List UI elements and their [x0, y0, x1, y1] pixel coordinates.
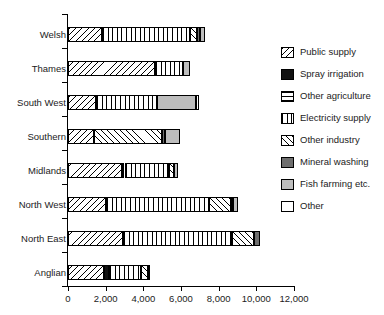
y-axis-label: South West — [0, 98, 66, 108]
legend-swatch-otheragri-icon — [281, 91, 294, 102]
legend-label: Fish farming etc. — [300, 178, 370, 190]
y-axis-label: Anglian — [0, 268, 66, 278]
bar-segment-otherind — [232, 231, 255, 246]
bar-segment-public — [68, 27, 102, 42]
bar-segment-fish — [174, 163, 178, 178]
bar-segment-otherind — [209, 197, 231, 212]
x-axis-label: 12,000 — [264, 294, 324, 304]
legend-item-other[interactable]: Other — [281, 198, 384, 220]
bar-segment-public — [68, 265, 104, 280]
bar-segment-public — [68, 95, 96, 110]
y-axis-label: Thames — [0, 64, 66, 74]
legend-item-fish[interactable]: Fish farming etc. — [281, 176, 384, 198]
legend-label: Other industry — [300, 134, 360, 146]
x-axis-tick — [219, 286, 220, 291]
y-axis-label: Southern — [0, 132, 66, 142]
bar-segment-otherind — [94, 129, 162, 144]
legend-swatch-mineral-icon — [281, 157, 294, 168]
legend-item-otheragri[interactable]: Other agriculture — [281, 88, 384, 110]
bar-segment-otherind — [141, 265, 148, 280]
legend-swatch-spray-icon — [281, 69, 294, 80]
y-axis-label: Welsh — [0, 30, 66, 40]
bar-segment-elec — [96, 95, 156, 110]
legend-item-public[interactable]: Public supply — [281, 44, 384, 66]
x-axis-tick — [256, 286, 257, 291]
legend-swatch-other-icon — [281, 201, 294, 212]
bar-segment-public — [68, 129, 94, 144]
bar-segment-public — [68, 163, 122, 178]
legend-item-mineral[interactable]: Mineral washing — [281, 154, 384, 176]
stacked-bar-chart: WelshThamesSouth WestSouthernMidlandsNor… — [0, 0, 384, 315]
bar-segment-elec — [102, 27, 191, 42]
bar-segment-public — [68, 197, 106, 212]
legend-item-spray[interactable]: Spray irrigation — [281, 66, 384, 88]
legend-swatch-elec-icon — [281, 113, 294, 124]
bar-segment-mineral — [254, 231, 260, 246]
legend-swatch-otherind-icon — [281, 135, 294, 146]
bar-segment-fish — [148, 265, 151, 280]
bar-segment-public — [68, 231, 123, 246]
bar-segment-fish — [200, 27, 205, 42]
bar-segment-fish — [233, 197, 238, 212]
legend-swatch-fish-icon — [281, 179, 294, 190]
legend-item-otherind[interactable]: Other industry — [281, 132, 384, 154]
x-axis-tick — [294, 286, 295, 291]
legend-label: Spray irrigation — [300, 68, 364, 80]
bar-segment-elec — [123, 231, 232, 246]
x-axis-tick — [181, 286, 182, 291]
legend-label: Mineral washing — [300, 156, 369, 168]
x-axis-tick — [106, 286, 107, 291]
y-axis-label: Midlands — [0, 166, 66, 176]
legend-label: Other — [300, 200, 324, 212]
legend-item-elec[interactable]: Electricity supply — [281, 110, 384, 132]
x-axis-tick — [143, 286, 144, 291]
bar-segment-elec — [155, 61, 183, 76]
y-axis-label: North East — [0, 234, 66, 244]
bar-segment-elec — [125, 163, 169, 178]
bar-segment-fish — [183, 61, 191, 76]
legend-label: Electricity supply — [300, 112, 371, 124]
bar-segment-otherind — [190, 27, 197, 42]
bar-segment-fish — [157, 95, 197, 110]
legend-label: Other agriculture — [300, 90, 371, 102]
legend-swatch-public-icon — [281, 47, 294, 58]
bar-segment-elec — [106, 197, 210, 212]
plot-area — [68, 14, 294, 286]
bar-segment-elec — [109, 265, 141, 280]
bar-segment-fish — [165, 129, 180, 144]
chart-legend: Public supplySpray irrigationOther agric… — [281, 44, 384, 220]
legend-label: Public supply — [300, 46, 356, 58]
bar-segment-public — [68, 61, 155, 76]
bar-segment-other — [196, 95, 199, 110]
x-axis-tick — [68, 286, 69, 291]
y-axis-label: North West — [0, 200, 66, 210]
